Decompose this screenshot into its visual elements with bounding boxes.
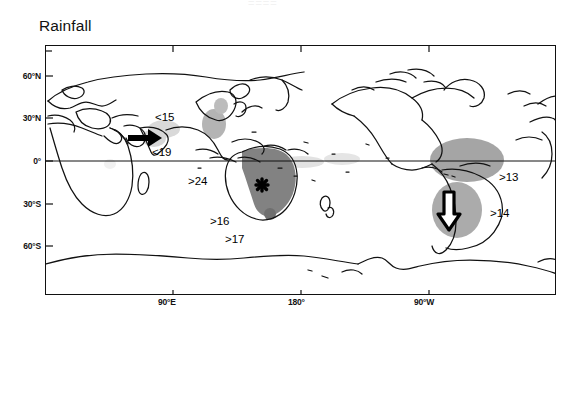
coast-canada-north: [412, 88, 474, 98]
rainfall-figure: ==== Rainfall: [0, 0, 577, 398]
coast-island-7: [366, 144, 369, 145]
annotation-gt17: >17: [225, 233, 245, 245]
coast-arctic-4: [424, 81, 446, 88]
y-tick-label-60s: 60°S: [8, 241, 41, 251]
legend: <45% 31 - 45% 16 - 30% 0 - 15% 0 - 15% 1…: [0, 310, 577, 398]
coast-antarctic-island-2: [308, 270, 312, 271]
axis-ticks: [46, 46, 429, 295]
coast-europe-wrap-1: [538, 96, 556, 104]
coast-alaska-south: [332, 104, 354, 116]
coast-antarctic-peninsula: [342, 270, 362, 274]
coast-russia-north: [48, 72, 304, 101]
coast-island-3: [312, 180, 315, 181]
coast-antarctica-far: [538, 259, 556, 262]
coast-alaska-canada: [332, 87, 423, 120]
y-tick-label-0: 0°: [8, 156, 41, 166]
annotation-gt14: >14: [490, 207, 510, 219]
coast-antarctica-west: [358, 257, 556, 274]
coast-indochina: [196, 149, 218, 154]
map-panel: [45, 45, 556, 295]
top-partial-text: ====: [248, 0, 278, 9]
coast-black-sea: [76, 109, 111, 129]
coast-arctic-2: [390, 72, 416, 78]
blob-central-pacific: [324, 153, 360, 165]
coast-new-zealand: [320, 196, 330, 211]
annotation-lt15: <15: [155, 111, 175, 123]
x-tick-label-180: 180°: [288, 297, 305, 307]
coast-antarctic-island-1: [322, 276, 328, 278]
y-tick-label-30s: 30°S: [8, 199, 41, 209]
coast-central-asia: [112, 115, 138, 118]
coast-iberia-wrap: [524, 103, 546, 106]
coast-greenland: [444, 79, 484, 106]
annotation-lt19: <19: [152, 146, 172, 158]
blob-south-south-america: [432, 182, 482, 238]
coast-scandinavia-peninsula: [62, 86, 84, 98]
blob-korea: [214, 98, 228, 114]
coast-island-4: [304, 142, 308, 143]
annotation-gt24: >24: [188, 175, 208, 187]
coast-japan: [230, 84, 250, 99]
coast-uk-wrap: [508, 91, 530, 94]
coast-europe-wrap-2: [530, 117, 556, 126]
station-star-icon: [256, 179, 268, 191]
y-tick-label-60n: 60°N: [8, 71, 41, 81]
annotation-gt16: >16: [210, 215, 230, 227]
x-tick-label-90w: 90°W: [414, 297, 434, 307]
top-cropped-strip: ====: [0, 0, 577, 14]
coast-siberia-east: [250, 77, 302, 90]
coast-kamchatka: [276, 80, 289, 111]
coast-arctic-1: [376, 79, 406, 82]
coast-north-america-west: [354, 116, 392, 164]
coast-new-zealand-south: [326, 207, 334, 217]
coast-africa-wrap: [542, 132, 552, 178]
coast-madagascar: [138, 172, 149, 194]
page-title: Rainfall: [39, 17, 92, 35]
coast-new-guinea: [288, 149, 308, 154]
coast-west-africa-wrap: [516, 137, 542, 140]
world-map-svg: [46, 46, 556, 295]
annotation-gt13: >13: [499, 171, 519, 183]
coast-antarctica-east: [46, 254, 358, 264]
y-tick-label-30n: 30°N: [8, 113, 41, 123]
x-tick-label-90e: 90°E: [158, 297, 176, 307]
coast-scandinavia: [48, 100, 116, 109]
